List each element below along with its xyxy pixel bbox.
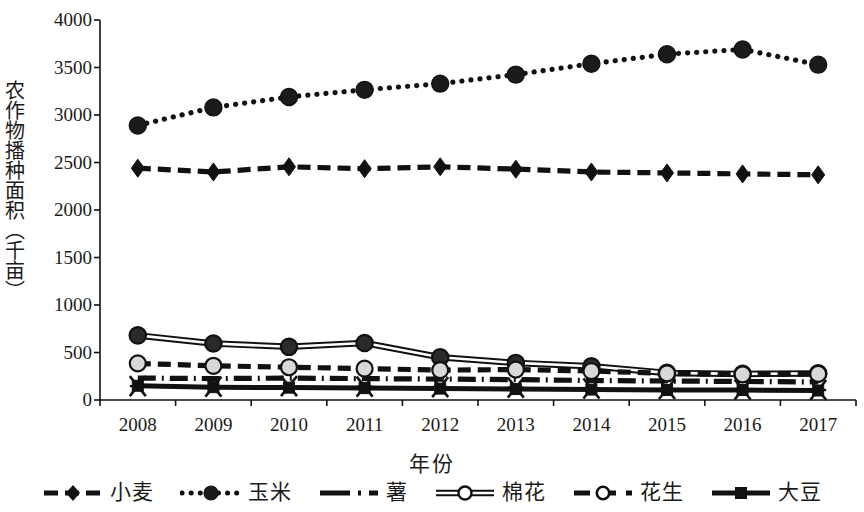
marker-square (359, 383, 370, 394)
legend-marker-circle (204, 486, 218, 500)
marker-diamond (585, 163, 598, 181)
data-point (205, 335, 221, 351)
data-point (510, 384, 521, 395)
marker-square (284, 382, 295, 393)
series-小麦 (131, 158, 824, 184)
marker-circle-open (130, 355, 146, 371)
marker-circle-open (432, 362, 448, 378)
data-point (507, 66, 524, 83)
marker-circle-filled (507, 66, 524, 83)
marker-diamond (283, 158, 296, 176)
data-point (130, 355, 146, 371)
marker-circle-filled (734, 41, 751, 58)
legend-label: 花生 (640, 482, 684, 503)
data-point (358, 160, 371, 178)
marker-square (737, 385, 748, 396)
marker-square (208, 382, 219, 393)
data-point (737, 385, 748, 396)
legend-item-大豆[interactable]: 大豆 (710, 482, 822, 503)
legend-item-玉米[interactable]: 玉米 (180, 482, 292, 503)
x-axis-title: 年份 (0, 447, 864, 477)
data-point (356, 81, 373, 98)
marker-circle-filled (129, 117, 146, 134)
marker-circle-filled (205, 99, 222, 116)
marker-circle-open (281, 339, 297, 355)
data-point (434, 158, 447, 176)
marker-square (813, 385, 824, 396)
marker-circle-open (356, 335, 372, 351)
data-point (356, 335, 372, 351)
data-point (432, 75, 449, 92)
legend-label: 薯 (386, 482, 408, 503)
data-point (659, 365, 675, 381)
data-point (207, 163, 220, 181)
legend-label: 棉花 (502, 482, 546, 503)
plot-area (0, 0, 864, 512)
series-line (138, 378, 818, 382)
marker-circle-filled (810, 56, 827, 73)
data-point (205, 99, 222, 116)
legend-swatch-薯 (318, 483, 380, 503)
data-point (357, 361, 373, 377)
data-point (130, 327, 146, 343)
marker-diamond (207, 163, 220, 181)
legend-swatch-大豆 (710, 483, 772, 503)
data-point (734, 41, 751, 58)
marker-square (510, 384, 521, 395)
marker-diamond (661, 164, 674, 182)
marker-diamond (358, 160, 371, 178)
data-point (583, 55, 600, 72)
series-玉米 (129, 41, 826, 134)
marker-diamond (434, 158, 447, 176)
marker-square (586, 384, 597, 395)
marker-circle-open (583, 363, 599, 379)
legend-marker-square (735, 487, 747, 499)
data-point (509, 160, 522, 178)
legend-item-小麦[interactable]: 小麦 (42, 482, 154, 503)
marker-diamond (509, 160, 522, 178)
marker-circle-open (810, 366, 826, 382)
marker-circle-filled (659, 46, 676, 63)
marker-circle-open (357, 361, 373, 377)
legend-item-薯[interactable]: 薯 (318, 482, 408, 503)
marker-square (132, 380, 143, 391)
marker-diamond (812, 166, 825, 184)
legend-marker-diamond (66, 485, 80, 501)
marker-circle-open (659, 365, 675, 381)
marker-square (662, 385, 673, 396)
marker-diamond (131, 159, 144, 177)
marker-circle-open (281, 359, 297, 375)
crop-sown-area-line-chart: 农作物播种面积（千亩） 0500100015002000250030003500… (0, 0, 864, 512)
data-point (508, 362, 524, 378)
data-point (284, 382, 295, 393)
marker-circle-filled (281, 88, 298, 105)
legend-marker-circle-open (459, 486, 472, 499)
data-point (129, 117, 146, 134)
legend-item-花生[interactable]: 花生 (572, 482, 684, 503)
marker-circle-open (508, 362, 524, 378)
data-point (813, 385, 824, 396)
marker-circle-open (130, 327, 146, 343)
data-point (281, 359, 297, 375)
series-line (138, 386, 818, 391)
data-point (810, 366, 826, 382)
data-point (812, 166, 825, 184)
legend-swatch-玉米 (180, 483, 242, 503)
marker-circle-open (205, 335, 221, 351)
data-point (735, 366, 751, 382)
marker-circle-open (735, 366, 751, 382)
data-point (585, 163, 598, 181)
legend-swatch-花生 (572, 483, 634, 503)
legend-label: 小麦 (110, 482, 154, 503)
marker-square (435, 383, 446, 394)
data-point (810, 56, 827, 73)
chart-legend: 小麦玉米薯棉花花生大豆 (0, 482, 864, 503)
data-point (131, 159, 144, 177)
data-point (208, 382, 219, 393)
data-point (281, 339, 297, 355)
data-point (586, 384, 597, 395)
legend-label: 玉米 (248, 482, 292, 503)
legend-item-棉花[interactable]: 棉花 (434, 482, 546, 503)
data-point (736, 165, 749, 183)
legend-swatch-棉花 (434, 483, 496, 503)
